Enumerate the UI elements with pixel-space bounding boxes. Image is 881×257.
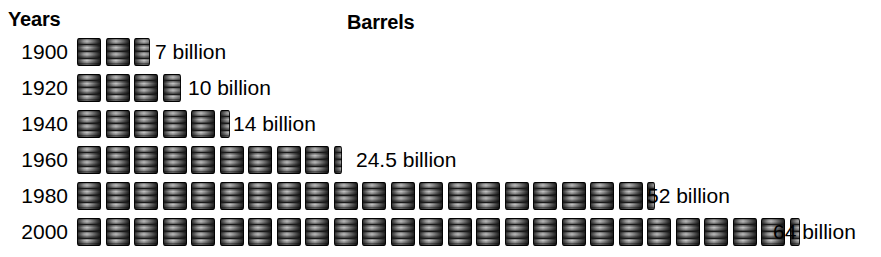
oil-barrel-icon xyxy=(334,182,358,210)
barrel-strip xyxy=(77,216,804,248)
oil-barrel-icon xyxy=(248,146,272,174)
oil-barrel-icon xyxy=(134,110,158,138)
chart-row: 1960 24.5 billion xyxy=(0,144,881,176)
oil-barrel-icon xyxy=(220,218,244,246)
row-value-label: 14 billion xyxy=(233,112,316,136)
oil-barrel-icon xyxy=(562,182,586,210)
oil-barrel-icon xyxy=(476,182,500,210)
oil-barrel-icon xyxy=(134,146,158,174)
oil-barrel-icon xyxy=(220,146,244,174)
oil-barrel-icon xyxy=(77,218,101,246)
oil-barrel-icon xyxy=(77,110,101,138)
oil-barrel-icon-partial xyxy=(163,74,181,102)
chart-row: 1980 52 billion xyxy=(0,180,881,212)
oil-barrel-icon xyxy=(305,182,329,210)
barrel-strip xyxy=(77,180,660,212)
row-value-label: 64 billion xyxy=(773,220,856,244)
oil-barrel-icon xyxy=(220,182,244,210)
oil-barrel-icon xyxy=(647,218,671,246)
years-column-header: Years xyxy=(8,9,60,29)
row-year-label: 1900 xyxy=(0,40,68,64)
oil-barrel-icon xyxy=(505,182,529,210)
oil-barrel-icon xyxy=(163,110,187,138)
oil-barrel-icon xyxy=(191,146,215,174)
chart-row: 1920 10 billion xyxy=(0,72,881,104)
barrel-strip xyxy=(77,36,155,68)
oil-barrel-icon xyxy=(476,218,500,246)
oil-barrel-icon xyxy=(505,218,529,246)
oil-barrel-icon xyxy=(163,146,187,174)
oil-barrel-icon xyxy=(277,146,301,174)
oil-barrel-icon xyxy=(77,38,101,66)
oil-barrel-icon xyxy=(448,218,472,246)
oil-barrel-icon xyxy=(191,218,215,246)
row-value-label: 10 billion xyxy=(188,76,271,100)
oil-barrel-icon xyxy=(134,182,158,210)
oil-barrel-icon xyxy=(106,182,130,210)
oil-barrel-icon xyxy=(619,218,643,246)
oil-barrel-icon xyxy=(362,182,386,210)
oil-barrel-icon xyxy=(277,182,301,210)
oil-barrel-icon xyxy=(191,110,215,138)
oil-barrel-icon xyxy=(334,218,358,246)
oil-barrel-icon xyxy=(134,74,158,102)
oil-barrel-icon xyxy=(106,74,130,102)
barrel-strip xyxy=(77,108,234,140)
oil-barrel-icon xyxy=(448,182,472,210)
oil-barrel-icon xyxy=(77,182,101,210)
oil-barrel-icon xyxy=(77,74,101,102)
oil-barrel-icon xyxy=(277,218,301,246)
oil-barrel-icon xyxy=(248,182,272,210)
oil-barrel-icon xyxy=(419,182,443,210)
oil-barrel-icon xyxy=(163,218,187,246)
oil-barrel-icon xyxy=(676,218,700,246)
oil-barrel-icon xyxy=(419,218,443,246)
row-year-label: 2000 xyxy=(0,220,68,244)
oil-barrel-icon xyxy=(590,218,614,246)
pictogram-chart: Years Barrels 1900 7 billion 1920 10 bil… xyxy=(0,0,881,257)
oil-barrel-icon-partial xyxy=(134,38,150,66)
oil-barrel-icon xyxy=(106,218,130,246)
oil-barrel-icon xyxy=(590,182,614,210)
oil-barrel-icon-partial xyxy=(334,146,342,174)
oil-barrel-icon xyxy=(163,182,187,210)
chart-row: 1940 14 billion xyxy=(0,108,881,140)
row-year-label: 1920 xyxy=(0,76,68,100)
oil-barrel-icon xyxy=(704,218,728,246)
row-value-label: 7 billion xyxy=(155,40,226,64)
chart-row: 2000 64 billion xyxy=(0,216,881,248)
oil-barrel-icon xyxy=(362,218,386,246)
chart-row: 1900 7 billion xyxy=(0,36,881,68)
oil-barrel-icon xyxy=(106,110,130,138)
oil-barrel-icon xyxy=(191,182,215,210)
oil-barrel-icon xyxy=(305,218,329,246)
oil-barrel-icon xyxy=(619,182,643,210)
row-year-label: 1960 xyxy=(0,148,68,172)
oil-barrel-icon xyxy=(391,218,415,246)
oil-barrel-icon xyxy=(533,182,557,210)
barrels-column-header: Barrels xyxy=(347,12,415,32)
oil-barrel-icon xyxy=(391,182,415,210)
row-year-label: 1940 xyxy=(0,112,68,136)
oil-barrel-icon xyxy=(106,38,130,66)
oil-barrel-icon xyxy=(248,218,272,246)
row-value-label: 52 billion xyxy=(647,184,730,208)
oil-barrel-icon xyxy=(533,218,557,246)
oil-barrel-icon xyxy=(562,218,586,246)
oil-barrel-icon xyxy=(733,218,757,246)
barrel-strip xyxy=(77,144,346,176)
oil-barrel-icon xyxy=(134,218,158,246)
oil-barrel-icon xyxy=(106,146,130,174)
oil-barrel-icon xyxy=(305,146,329,174)
barrel-strip xyxy=(77,72,185,104)
oil-barrel-icon xyxy=(77,146,101,174)
oil-barrel-icon-partial xyxy=(220,110,230,138)
row-value-label: 24.5 billion xyxy=(356,148,456,172)
row-year-label: 1980 xyxy=(0,184,68,208)
